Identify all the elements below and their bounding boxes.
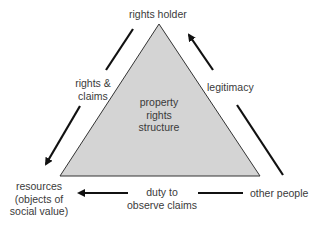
edge-left-line-2: claims — [70, 90, 116, 103]
center-line-1: property — [125, 96, 193, 109]
center-label: property rights structure — [125, 96, 193, 134]
edge-legitimacy: legitimacy — [207, 81, 254, 94]
resources-line-1: resources — [8, 180, 70, 193]
center-line-2: rights — [125, 109, 193, 122]
node-other-people: other people — [250, 187, 308, 200]
duty-line-1: duty to — [124, 186, 200, 199]
center-line-3: structure — [125, 121, 193, 134]
edge-duty: duty to observe claims — [124, 186, 200, 211]
rights-claims-line-upper — [106, 29, 133, 70]
node-resources: resources (objects of social value) — [8, 180, 70, 218]
duty-line-2: observe claims — [124, 199, 200, 212]
resources-line-2: (objects of — [8, 193, 70, 206]
edge-rights-claims: rights & claims — [70, 77, 116, 102]
legitimacy-arrow — [189, 35, 213, 70]
edge-left-line-1: rights & — [70, 77, 116, 90]
node-rights-holder: rights holder — [129, 8, 187, 21]
resources-line-3: social value) — [8, 205, 70, 218]
